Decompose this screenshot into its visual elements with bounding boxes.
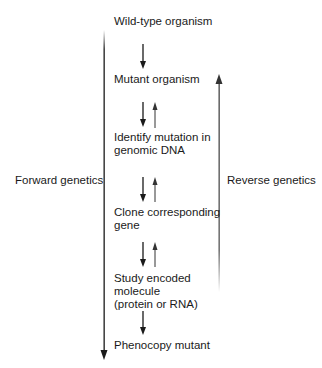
up-arrow-3	[153, 177, 158, 202]
step-text: (protein or RNA)	[114, 298, 198, 311]
forward-genetics-label: Forward genetics	[15, 174, 103, 187]
step-phenocopy-mutant: Phenocopy mutant	[114, 339, 210, 352]
step-mutant-organism: Mutant organism	[114, 73, 200, 86]
step-clone-gene: Clone corresponding gene	[114, 206, 220, 232]
step-text: Identify mutation in	[114, 131, 211, 144]
reverse-genetics-arrow	[216, 74, 223, 292]
down-arrow-4	[140, 242, 146, 267]
down-arrow-3	[140, 177, 146, 202]
down-arrow-2	[140, 102, 146, 127]
down-arrow-1	[140, 44, 146, 69]
up-arrow-2	[153, 102, 158, 128]
reverse-genetics-label: Reverse genetics	[227, 174, 316, 187]
step-text: Wild-type organism	[114, 15, 212, 28]
step-text: Clone corresponding	[114, 206, 220, 219]
step-text: Mutant organism	[114, 73, 200, 86]
down-arrow-5	[140, 311, 146, 335]
step-wild-type-organism: Wild-type organism	[114, 15, 212, 28]
step-text: genomic DNA	[114, 144, 211, 157]
step-identify-mutation: Identify mutation in genomic DNA	[114, 131, 211, 157]
up-arrow-4	[153, 242, 158, 267]
step-text: Phenocopy mutant	[114, 339, 210, 352]
forward-genetics-arrow	[101, 30, 108, 360]
step-study-molecule: Study encoded molecule (protein or RNA)	[114, 272, 198, 311]
step-text: molecule	[114, 285, 198, 298]
step-text: Study encoded	[114, 272, 198, 285]
step-text: gene	[114, 219, 220, 232]
